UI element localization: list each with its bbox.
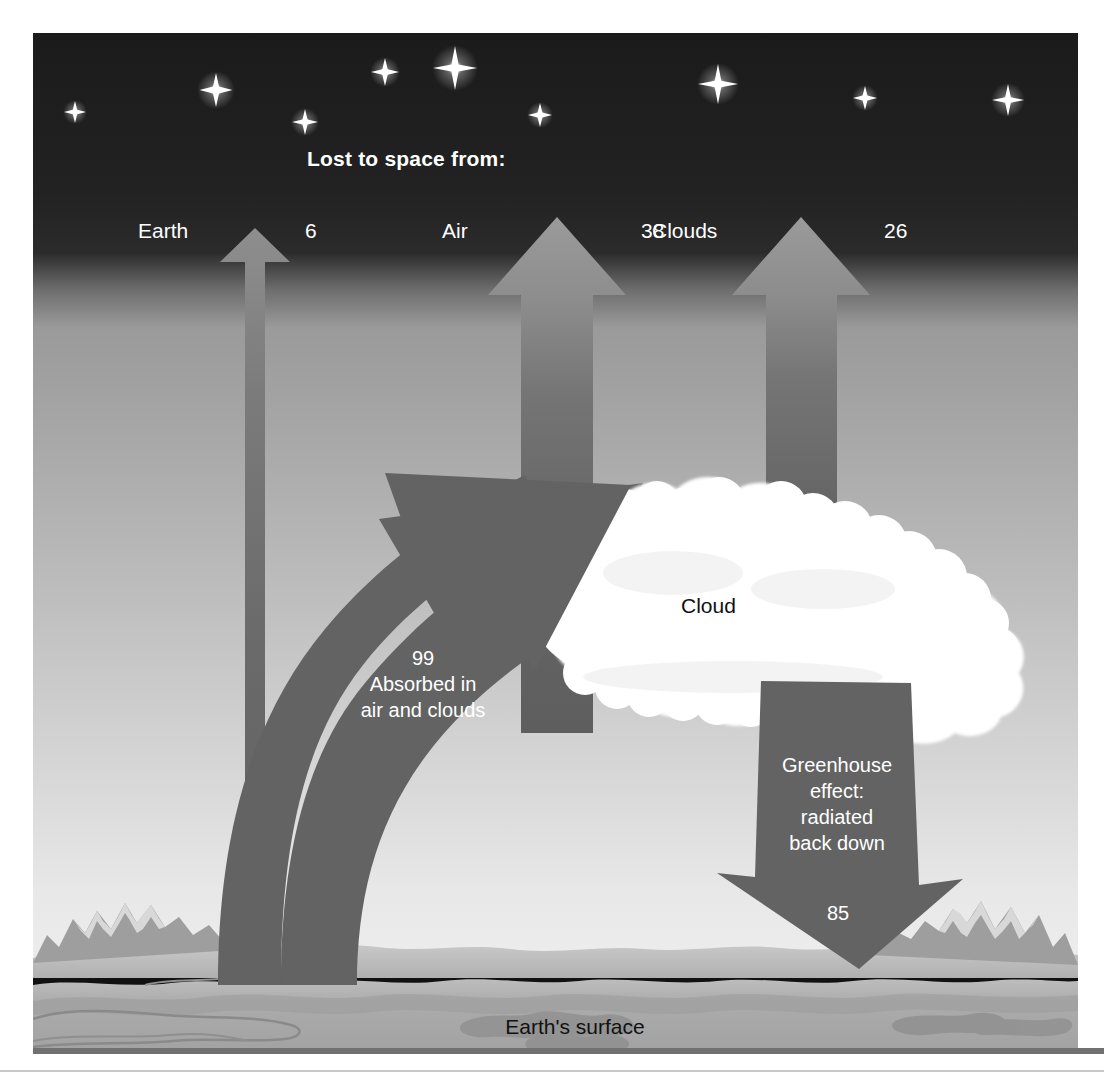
bottom-rule-bar [33,1048,1104,1054]
label-greenhouse-line2: effect: [751,779,923,803]
star [370,57,400,87]
value-absorbed: 99 [333,646,513,670]
star [291,108,319,136]
star [63,100,87,124]
star [527,102,553,128]
value-earth: 6 [305,218,317,244]
diagram-page: Lost to space from: Earth 6 Air 38 Cloud… [0,0,1104,1074]
star [197,71,235,109]
label-absorbed-line2: air and clouds [323,698,523,722]
star [697,63,739,105]
illustration-plate: Lost to space from: Earth 6 Air 38 Cloud… [33,33,1078,1048]
label-earths-surface: Earth's surface [455,1014,695,1040]
value-clouds: 26 [884,218,907,244]
label-cloud: Cloud [681,593,736,619]
star [852,85,878,111]
label-earth: Earth [138,218,188,244]
star [432,45,478,91]
label-greenhouse-line4: back down [751,831,923,855]
label-greenhouse-line1: Greenhouse [751,753,923,777]
star [991,83,1025,117]
bottom-hairline [0,1070,1104,1072]
value-greenhouse: 85 [773,901,903,925]
label-clouds: Clouds [652,218,717,244]
illustration-canvas [33,33,1078,1048]
heading-lost-to-space: Lost to space from: [307,146,506,172]
label-absorbed-line1: Absorbed in [323,672,523,696]
label-air: Air [442,218,468,244]
label-greenhouse-line3: radiated [751,805,923,829]
